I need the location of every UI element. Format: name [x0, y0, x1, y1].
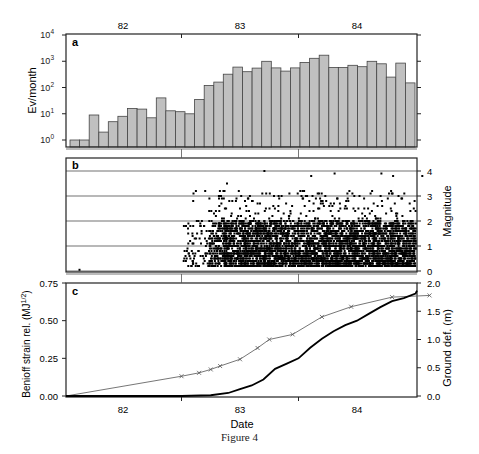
- panel-b-magnitude-scatter: 01234bMagnitude: [66, 158, 453, 277]
- magnitude-points: [79, 170, 424, 271]
- figure-4: a100101102103104Ev/month 01234bMagnitude…: [0, 0, 479, 454]
- y-axis-label-b: Magnitude: [441, 185, 453, 236]
- histogram-bar: [405, 83, 415, 147]
- x-marker: [256, 346, 260, 350]
- tick-label: 0.0: [427, 391, 440, 402]
- tick-label: 0.75: [40, 278, 59, 289]
- panel-a-histogram: a100101102103104Ev/month: [26, 28, 421, 147]
- histogram-bar: [252, 68, 262, 147]
- histogram-bar: [214, 82, 224, 147]
- histogram-bar: [262, 61, 272, 147]
- histogram-bar: [377, 64, 387, 147]
- tick-label: 102: [40, 81, 54, 93]
- histogram-bar: [386, 77, 396, 147]
- histogram-bar: [281, 71, 291, 147]
- tick-label: 103: [40, 54, 54, 66]
- tick-label: 2: [427, 216, 432, 227]
- histogram-bar: [156, 98, 166, 147]
- bottom-axis-tick-label: 83: [235, 404, 246, 415]
- tick-label: 2.0: [427, 278, 440, 289]
- histogram-bar: [195, 100, 205, 148]
- histogram-bar: [99, 132, 109, 147]
- tick-label: 0.25: [40, 353, 59, 364]
- histogram-bar: [319, 55, 329, 147]
- panel-c-strain-deformation: c0.000.250.500.750.00.51.01.52.0Benioff …: [20, 278, 453, 402]
- y-axis-label-c-left: Benioff strain rel. (MJ1/2): [20, 290, 32, 397]
- tick-label: 104: [40, 28, 54, 40]
- tick-label: 3: [427, 191, 432, 202]
- histogram-bar: [396, 63, 406, 147]
- top-axis-tick-label: 84: [352, 20, 363, 31]
- x-marker: [238, 357, 242, 361]
- histogram-bar: [367, 61, 377, 147]
- histogram-bar: [233, 67, 243, 147]
- tick-label: 0.50: [40, 315, 59, 326]
- tick-label: 0.00: [40, 391, 59, 402]
- x-axis-label: Date: [230, 418, 253, 430]
- bottom-axis-tick-label: 84: [352, 404, 363, 415]
- histogram-bar: [310, 58, 320, 147]
- histogram-bar: [290, 68, 300, 147]
- y-axis-label-a: Ev/month: [26, 67, 38, 113]
- x-marker: [218, 364, 222, 368]
- tick-label: 1.0: [427, 334, 440, 345]
- histogram-bar: [348, 65, 358, 147]
- histogram-bar: [137, 109, 147, 147]
- histogram-bar: [358, 67, 368, 147]
- histogram-bar: [166, 111, 176, 147]
- histogram-bar: [271, 68, 281, 147]
- histogram-bar: [175, 112, 185, 147]
- top-axis-tick-label: 83: [235, 20, 246, 31]
- histogram-bar: [147, 118, 157, 147]
- panel-label-b: b: [72, 159, 79, 171]
- panel-label-c: c: [72, 285, 78, 297]
- histogram-bar: [128, 108, 138, 147]
- x-marker: [320, 315, 324, 319]
- histogram-bar: [89, 115, 99, 147]
- tick-label: 100: [40, 133, 54, 145]
- tick-label: 0: [427, 266, 432, 277]
- panel-label-a: a: [72, 36, 79, 48]
- histogram-bar: [185, 114, 195, 147]
- tick-label: 1.5: [427, 306, 440, 317]
- histogram-bar: [300, 63, 310, 148]
- histogram-bar: [338, 68, 348, 148]
- histogram-bar: [70, 140, 80, 147]
- histogram-bar: [108, 122, 118, 147]
- histogram-bar: [118, 116, 128, 147]
- tick-label: 0.5: [427, 362, 440, 373]
- histogram-bar: [204, 85, 214, 147]
- histogram-bar: [243, 72, 253, 147]
- histogram-bar: [80, 140, 90, 147]
- benioff-strain-line: [66, 291, 417, 396]
- histogram-bar: [223, 74, 233, 147]
- top-axis-tick-label: 82: [118, 20, 129, 31]
- tick-label: 1: [427, 241, 432, 252]
- histogram-bar: [329, 68, 339, 148]
- y-axis-label-c-right: Ground def. (m): [441, 309, 453, 387]
- tick-label: 4: [427, 166, 432, 177]
- bottom-axis-tick-label: 82: [118, 404, 129, 415]
- tick-label: 101: [40, 107, 54, 119]
- panel-c-frame: [66, 283, 417, 397]
- figure-caption: Figure 4: [0, 431, 479, 443]
